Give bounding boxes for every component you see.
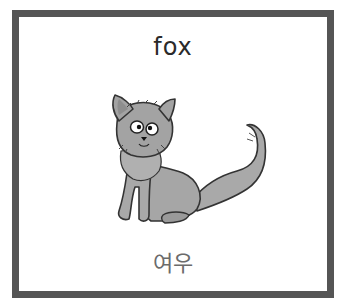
fox-tail xyxy=(193,125,265,211)
korean-word: 여우 xyxy=(19,251,327,277)
flashcard: fox 여우 xyxy=(12,10,334,298)
fox-illustration xyxy=(97,87,277,227)
english-word: fox xyxy=(19,33,327,61)
fox-right-eye xyxy=(146,123,158,135)
